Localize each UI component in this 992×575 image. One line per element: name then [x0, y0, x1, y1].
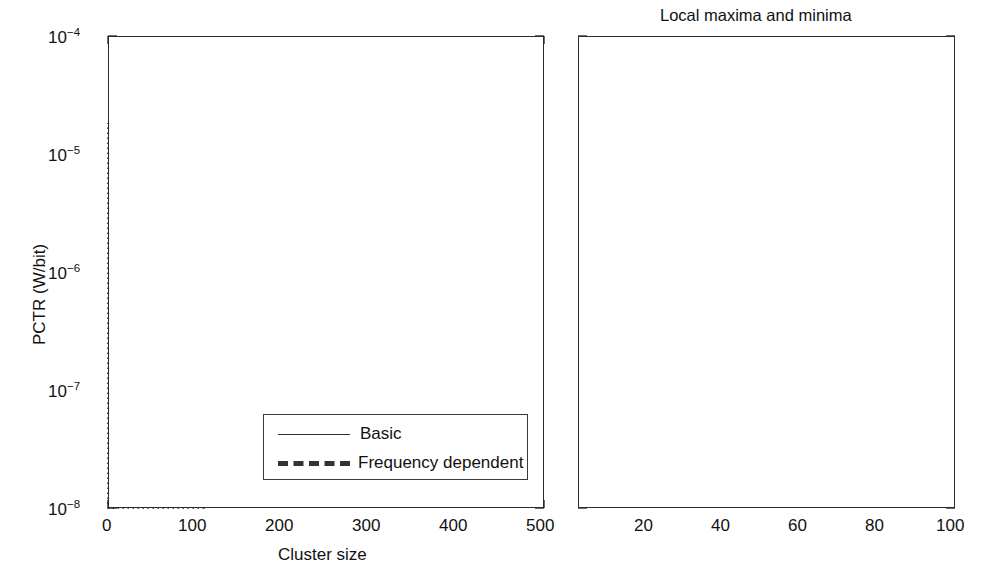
- right-plot-frame: [578, 36, 955, 508]
- figure-root: 10−4 10−5 10−6 10−7 10−8 PCTR (W/bit) 0 …: [0, 0, 992, 575]
